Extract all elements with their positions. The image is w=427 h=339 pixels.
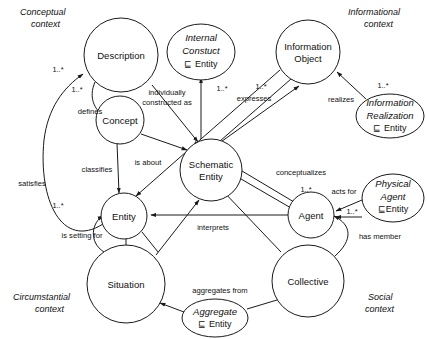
- edge-label-acts-for: acts for: [332, 187, 357, 196]
- mult-label-acts-for: 1..*: [346, 207, 357, 216]
- node-aggregate-subsumption: ⊑ Entity: [198, 319, 232, 329]
- node-concept[interactable]: Concept: [96, 96, 144, 144]
- edge-label-has-member: has member: [359, 232, 402, 241]
- node-physical-agent-label-line2: Agent: [380, 191, 406, 202]
- node-physical-agent-label-line1: Physical: [375, 178, 411, 189]
- node-description[interactable]: Description: [84, 18, 158, 92]
- edge-label-is-setting-for: is setting for: [62, 231, 103, 240]
- node-information-object-label-line1: Information: [284, 41, 332, 52]
- edge-collective-to-schematic: [222, 190, 281, 252]
- node-situation[interactable]: Situation: [87, 245, 165, 323]
- edge-aggregate-to-collective: [247, 300, 277, 309]
- node-schematic-entity-label-line2: Entity: [199, 171, 223, 182]
- node-collective[interactable]: Collective: [272, 245, 344, 317]
- edge-situation-to-schematic: [156, 200, 199, 255]
- ontology-diagram: Description Concept Entity Situation Sch…: [0, 0, 427, 339]
- mult-label-satisfies: 1..*: [52, 65, 63, 74]
- edge-label-defines: defines: [78, 107, 103, 116]
- node-layer: Description Concept Entity Situation Sch…: [84, 18, 424, 337]
- node-collective-label: Collective: [287, 276, 328, 287]
- node-agent-label: Agent: [299, 210, 324, 221]
- edge-label-classifies: classifies: [82, 165, 113, 174]
- edge-label-satisfies: satisfies: [18, 179, 46, 188]
- edge-entity-to-situation: [142, 232, 158, 252]
- context-label-informational-line1: Informational: [348, 7, 401, 17]
- node-physical-agent[interactable]: Physical Agent ⊑Entity: [362, 174, 424, 222]
- node-schematic-entity-label-line1: Schematic: [189, 159, 234, 170]
- node-entity-label: Entity: [112, 211, 136, 222]
- mult-label-defines: 1..*: [71, 85, 82, 94]
- node-information-realization-label-line2: Realization: [367, 110, 414, 121]
- node-information-realization-label-line1: Information: [366, 97, 414, 108]
- node-description-label: Description: [97, 50, 145, 61]
- node-information-realization-subsumption: ⊑ Entity: [373, 123, 407, 133]
- mult-label-expresses: 1..*: [255, 82, 266, 91]
- edge-label-realizes: realizes: [328, 95, 354, 104]
- node-schematic-entity[interactable]: Schematic Entity: [180, 139, 242, 201]
- diagram-canvas: Description Concept Entity Situation Sch…: [0, 0, 427, 339]
- node-internal-constuct-subsumption: ⊑ Entity: [184, 59, 218, 69]
- node-situation-label: Situation: [108, 279, 145, 290]
- edge-label-individually: individually: [148, 88, 185, 97]
- node-concept-label: Concept: [102, 115, 138, 126]
- node-internal-constuct[interactable]: Internal Constuct ⊑ Entity: [167, 24, 235, 80]
- node-internal-constuct-label-line1: Internal: [185, 32, 218, 43]
- node-aggregate[interactable]: Aggregate ⊑ Entity: [182, 299, 248, 337]
- context-label-informational-line2: context: [364, 19, 394, 29]
- context-label-circumstantial-line1: Circumstantial: [13, 292, 71, 302]
- edge-aggregates-from: [160, 303, 184, 312]
- edge-has-member: [334, 216, 348, 256]
- node-information-realization[interactable]: Information Realization ⊑ Entity: [356, 94, 424, 138]
- node-entity[interactable]: Entity: [101, 193, 147, 239]
- edge-label-interprets: interprets: [197, 223, 229, 232]
- mult-label-internal-constuct: 1..*: [216, 84, 227, 93]
- node-information-object-label-line2: Object: [294, 53, 322, 64]
- node-internal-constuct-label-line2: Constuct: [182, 45, 220, 56]
- edge-is-about: [141, 134, 187, 150]
- context-label-social-line1: Social: [368, 292, 394, 302]
- edge-classifies: [117, 143, 119, 193]
- mult-label-realizes: 1..*: [377, 81, 388, 90]
- edge-label-expresses: expresses: [237, 94, 272, 103]
- context-label-conceptual-line2: context: [31, 19, 61, 29]
- mult-label-is-setting-for: 1..*: [52, 201, 63, 210]
- edge-expresses-a: [193, 70, 280, 146]
- context-label-social-line2: context: [365, 304, 395, 314]
- context-label-circumstantial-line2: context: [35, 304, 65, 314]
- node-agent[interactable]: Agent: [288, 192, 334, 238]
- edge-label-constructed-as: constructed as: [142, 98, 192, 107]
- edge-label-is-about: is about: [135, 158, 162, 167]
- edge-label-conceptualizes: conceptualizes: [276, 168, 326, 177]
- edge-label-aggregates-from: aggregates from: [192, 286, 247, 295]
- node-physical-agent-subsumption: ⊑Entity: [378, 204, 409, 214]
- context-label-conceptual-line1: Conceptual: [20, 7, 67, 17]
- node-information-object[interactable]: Information Object: [276, 20, 340, 84]
- mult-label-conceptualizes: 1..*: [300, 185, 311, 194]
- node-aggregate-label-line1: Aggregate: [192, 306, 237, 317]
